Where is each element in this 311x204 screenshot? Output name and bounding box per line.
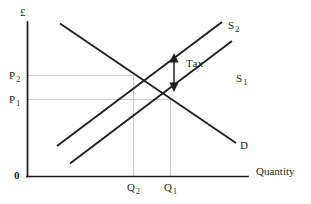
curve-label-s1: S1: [236, 73, 247, 87]
origin-label: 0: [14, 170, 20, 181]
x-axis-label: Quantity: [256, 166, 295, 177]
price-tick-p2: P2: [9, 70, 20, 84]
price-tick-p1: P1: [9, 94, 20, 108]
curve-label-s1-subscript: 1: [242, 78, 247, 87]
curve-supply-s2: [57, 22, 222, 146]
quantity-tick-q1: Q1: [164, 182, 177, 196]
curve-supply-s1: [70, 41, 232, 164]
price-tick-p1-subscript: 1: [15, 99, 20, 108]
curve-label-d: D: [240, 140, 249, 154]
price-tick-p2-subscript: 2: [15, 75, 20, 84]
tax-annotation-label: Tax: [186, 58, 204, 69]
curve-label-d-base: D: [240, 139, 248, 151]
quantity-tick-q2-subscript: 2: [135, 187, 140, 196]
curve-label-s2-subscript: 2: [234, 25, 239, 34]
tax-arrow-head-up: [169, 53, 178, 63]
curve-label-d-subscript: [248, 145, 249, 154]
supply-demand-tax-diagram: £ 0 P2 P1 Q2 Q1 S2 S1 D Tax Quantity: [0, 0, 311, 204]
quantity-tick-q2-base: Q: [127, 181, 135, 193]
curve-label-s2: S2: [228, 20, 239, 34]
quantity-tick-q1-base: Q: [164, 181, 172, 193]
y-axis-label: £: [20, 7, 26, 18]
quantity-tick-q1-subscript: 1: [172, 187, 177, 196]
quantity-tick-q2: Q2: [127, 182, 140, 196]
